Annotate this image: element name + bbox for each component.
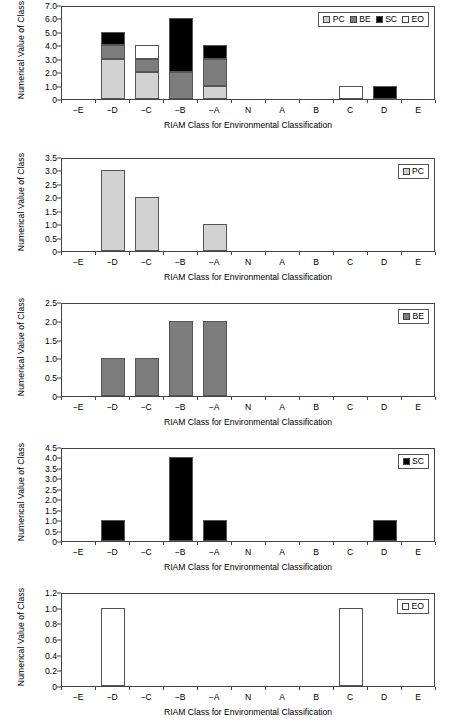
x-tick-mark [163, 687, 164, 690]
y-tick-label: 3.5 [45, 153, 57, 163]
legend-label: SC [412, 457, 424, 466]
x-tick-label: N [245, 402, 251, 412]
legend-item-pc: PC [403, 167, 424, 176]
plot-area-eo: EO [61, 593, 435, 687]
x-tick-label: N [245, 257, 251, 267]
x-tick-mark [333, 687, 334, 690]
y-axis-ticks: 01.02.03.04.05.06.07.0 [0, 6, 61, 100]
x-tick-mark [333, 542, 334, 545]
x-tick-mark [435, 542, 436, 545]
x-tick-mark [95, 252, 96, 255]
x-tick-mark [197, 100, 198, 103]
bar-combined-3 [169, 18, 193, 99]
y-tick-label: 6.0 [45, 14, 57, 24]
legend-sc: SC [398, 454, 429, 469]
x-tick-label: B [313, 402, 319, 412]
bar-segment-BE [101, 358, 125, 396]
x-tick-label: E [415, 105, 421, 115]
x-tick-label: D [381, 692, 387, 702]
bar-combined-9 [373, 86, 397, 99]
x-tick-mark [231, 252, 232, 255]
y-tick-label: 5.0 [45, 28, 57, 38]
x-tick-mark [367, 542, 368, 545]
x-tick-mark [95, 397, 96, 400]
x-tick-label: A [279, 692, 285, 702]
bar-eo-8 [339, 608, 363, 686]
legend-item-sc: SC [376, 15, 397, 24]
x-tick-mark [265, 252, 266, 255]
x-tick-mark [265, 100, 266, 103]
legend-swatch-icon-eo [402, 16, 409, 23]
x-axis-title: RIAM Class for Environmental Classificat… [61, 562, 435, 572]
y-tick-label: 1.0 [45, 516, 57, 526]
x-tick-label: −C [140, 402, 151, 412]
x-tick-mark [163, 542, 164, 545]
bar-combined-4 [203, 45, 227, 99]
x-tick-mark [367, 252, 368, 255]
y-tick-label: 1.0 [45, 82, 57, 92]
riam-class-figure: Numerical Value of Class01.02.03.04.05.0… [0, 0, 453, 726]
y-tick-label: 0.5 [45, 234, 57, 244]
x-tick-mark [95, 687, 96, 690]
x-tick-label: C [347, 692, 353, 702]
bar-sc-9 [373, 520, 397, 541]
x-tick-label: −E [73, 105, 84, 115]
x-tick-mark [61, 542, 62, 545]
x-tick-mark [61, 252, 62, 255]
x-tick-label: E [415, 692, 421, 702]
x-tick-mark [401, 100, 402, 103]
bar-segment-SC [203, 45, 227, 58]
bar-segment-PC [203, 224, 227, 251]
bar-sc-4 [203, 520, 227, 541]
x-axis-ticks: −E−D−C−B−ANABCDE [61, 252, 435, 274]
legend-label: PC [412, 167, 424, 176]
bar-segment-PC [135, 197, 159, 251]
x-tick-label: N [245, 692, 251, 702]
x-tick-label: A [279, 257, 285, 267]
legend-label: EO [412, 602, 424, 611]
legend-be: BE [398, 309, 429, 324]
x-tick-label: −B [175, 105, 186, 115]
x-tick-mark [95, 100, 96, 103]
y-tick-label: 1.0 [45, 604, 57, 614]
x-tick-mark [163, 100, 164, 103]
x-tick-mark [95, 542, 96, 545]
y-tick-label: 3.0 [45, 474, 57, 484]
x-tick-label: D [381, 105, 387, 115]
chart-panel-sc: Numerical Value of Class00.51.01.52.02.5… [0, 442, 453, 587]
bar-segment-EO [339, 86, 363, 99]
x-tick-mark [333, 397, 334, 400]
y-tick-label: 1.2 [45, 588, 57, 598]
x-tick-mark [401, 252, 402, 255]
x-tick-label: −D [106, 257, 117, 267]
x-axis-ticks: −E−D−C−B−ANABCDE [61, 542, 435, 564]
y-axis-ticks: 00.51.01.52.02.53.03.5 [0, 158, 61, 252]
legend-swatch-icon-be [350, 16, 357, 23]
chart-panel-eo: Numerical Value of Class00.20.40.60.81.0… [0, 587, 453, 726]
x-tick-label: C [347, 257, 353, 267]
legend-label: BE [413, 312, 424, 321]
bar-segment-BE [203, 321, 227, 396]
legend-label: SC [385, 15, 397, 24]
y-tick-label: 1.5 [45, 506, 57, 516]
x-tick-label: −A [209, 257, 220, 267]
x-tick-label: −E [73, 547, 84, 557]
x-tick-label: −B [175, 547, 186, 557]
legend-item-be: BE [350, 15, 371, 24]
x-tick-mark [265, 687, 266, 690]
bar-combined-8 [339, 86, 363, 99]
bar-segment-SC [169, 457, 193, 541]
x-axis-title: RIAM Class for Environmental Classificat… [61, 272, 435, 282]
bar-segment-SC [373, 520, 397, 541]
y-tick-label: 4.5 [45, 443, 57, 453]
x-tick-label: C [347, 547, 353, 557]
x-tick-label: −A [209, 547, 220, 557]
x-tick-label: C [347, 402, 353, 412]
x-tick-mark [299, 542, 300, 545]
bar-segment-BE [135, 59, 159, 72]
bar-pc-4 [203, 224, 227, 251]
x-tick-label: B [313, 692, 319, 702]
x-tick-mark [299, 252, 300, 255]
x-tick-mark [435, 100, 436, 103]
x-tick-mark [367, 100, 368, 103]
